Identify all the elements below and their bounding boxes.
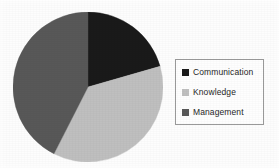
legend-item-communication[interactable]: Communication bbox=[182, 62, 263, 82]
square-swatch-icon bbox=[182, 69, 189, 76]
pie-chart-figure: Communication Knowledge Management bbox=[0, 0, 279, 168]
square-swatch-icon bbox=[182, 109, 189, 116]
legend-item-management[interactable]: Management bbox=[182, 102, 263, 122]
square-swatch-icon bbox=[182, 89, 189, 96]
legend-item-label: Knowledge bbox=[193, 82, 236, 102]
pie-chart-svg bbox=[13, 12, 163, 162]
legend-item-knowledge[interactable]: Knowledge bbox=[182, 82, 263, 102]
pie-slices-group bbox=[13, 12, 163, 162]
chart-legend: Communication Knowledge Management bbox=[175, 59, 264, 125]
legend-item-label: Communication bbox=[193, 62, 253, 82]
pie-chart-plot-area bbox=[13, 12, 163, 162]
legend-item-label: Management bbox=[193, 102, 244, 122]
